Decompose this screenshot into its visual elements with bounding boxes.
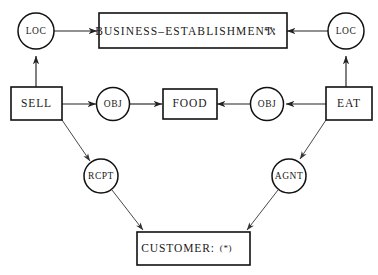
- node-sell-label: SELL: [21, 97, 52, 109]
- node-agnt-label: AGNT: [275, 171, 303, 181]
- node-agnt[interactable]: AGNT: [272, 159, 306, 193]
- node-food-label: FOOD: [173, 97, 208, 109]
- node-loc-left-label: LOC: [26, 26, 47, 36]
- node-obj-right[interactable]: OBJ: [251, 88, 284, 121]
- node-rcpt[interactable]: RCPT: [84, 159, 118, 193]
- node-customer-suffix: (*): [220, 243, 232, 253]
- node-sell[interactable]: SELL: [11, 87, 62, 120]
- node-customer-label: CUSTOMER:: [141, 242, 215, 254]
- node-food[interactable]: FOOD: [163, 89, 217, 119]
- node-business-establishment-label: BUSINESS–ESTABLISHMENT:: [95, 25, 277, 37]
- edge-agnt-to-customer: [247, 190, 278, 230]
- diagram-svg: BUSINESS–ESTABLISHMENT: *X LOC LOC SELL …: [0, 0, 378, 275]
- node-eat[interactable]: EAT: [326, 87, 372, 120]
- node-obj-left-label: OBJ: [104, 99, 122, 109]
- edge-rcpt-to-customer: [112, 190, 143, 230]
- node-business-establishment-suffix: *X: [264, 26, 276, 36]
- node-obj-left[interactable]: OBJ: [97, 88, 130, 121]
- diagram-canvas: BUSINESS–ESTABLISHMENT: *X LOC LOC SELL …: [0, 0, 378, 275]
- edge-sell-to-rcpt: [62, 120, 90, 161]
- node-rcpt-label: RCPT: [88, 171, 114, 181]
- node-loc-right-label: LOC: [336, 26, 357, 36]
- node-eat-label: EAT: [337, 97, 361, 109]
- node-obj-right-label: OBJ: [258, 99, 276, 109]
- node-customer[interactable]: CUSTOMER: (*): [137, 232, 250, 265]
- edge-eat-to-agnt: [300, 120, 326, 159]
- node-loc-left[interactable]: LOC: [18, 13, 54, 49]
- node-business-establishment[interactable]: BUSINESS–ESTABLISHMENT: *X: [95, 13, 287, 48]
- node-loc-right[interactable]: LOC: [328, 13, 364, 49]
